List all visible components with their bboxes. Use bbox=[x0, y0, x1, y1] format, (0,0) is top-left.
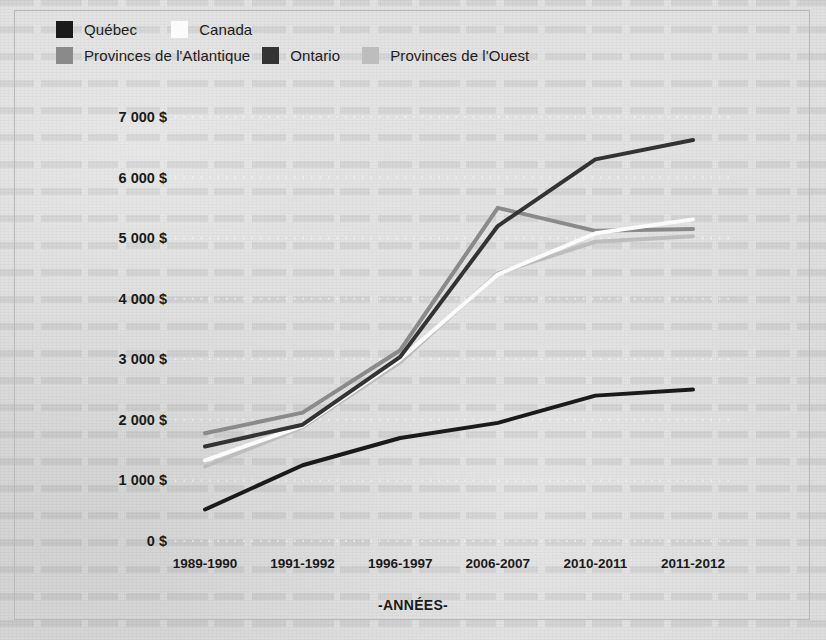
chart-plot-area bbox=[0, 0, 826, 640]
x-axis-tick-label: 2010-2011 bbox=[563, 556, 627, 571]
x-axis-tick-label: 2011-2012 bbox=[661, 556, 725, 571]
series-line bbox=[205, 140, 693, 446]
series-line bbox=[205, 219, 693, 460]
x-axis-tick-label: 1991-1992 bbox=[270, 556, 335, 571]
x-axis-tick-label: 1996-1997 bbox=[368, 556, 433, 571]
x-axis-tick-label: 1989-1990 bbox=[173, 556, 238, 571]
series-line bbox=[205, 390, 693, 510]
line-chart: 0 $1 000 $2 000 $3 000 $4 000 $5 000 $6 … bbox=[0, 0, 826, 640]
x-axis-title: -ANNÉES- bbox=[0, 597, 826, 613]
x-axis-tick-label: 2006-2007 bbox=[466, 556, 531, 571]
